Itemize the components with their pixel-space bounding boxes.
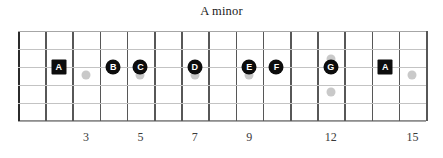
fret-wire-15 [426,31,428,121]
string-line-2 [18,49,426,50]
fret-number-7: 7 [180,130,210,144]
note-marker-a-fret-2[interactable]: A [51,60,66,75]
fretboard: ABCDEFGA [18,31,426,121]
note-marker-c-fret-5[interactable]: C [133,60,148,75]
inlay-dot-fret-3 [82,71,91,80]
note-marker-e-fret-9[interactable]: E [242,60,257,75]
fret-wire-8 [236,31,238,121]
fret-wire-1 [45,31,47,121]
string-line-5 [18,103,426,104]
fret-wire-12 [344,31,346,121]
fret-number-12: 12 [316,130,346,144]
nut [18,31,20,121]
fret-number-9: 9 [234,130,264,144]
string-line-1 [18,31,426,32]
note-marker-g-fret-12[interactable]: G [323,60,338,75]
string-line-3 [18,67,426,68]
fret-number-15: 15 [397,130,427,144]
fret-wire-3 [100,31,102,121]
string-line-4 [18,85,426,86]
fret-wire-14 [399,31,401,121]
note-marker-d-fret-7[interactable]: D [187,60,202,75]
fret-wire-9 [263,31,265,121]
note-marker-f-fret-10[interactable]: F [269,60,284,75]
fret-number-3: 3 [71,130,101,144]
fret-wire-13 [372,31,374,121]
fret-number-5: 5 [125,130,155,144]
note-marker-a-fret-14[interactable]: A [378,60,393,75]
fret-wire-10 [290,31,292,121]
fret-wire-11 [317,31,319,121]
page-title: A minor [0,4,443,18]
fret-wire-7 [208,31,210,121]
inlay-dot-fret-12-2 [326,88,335,97]
fretboard-diagram: A minor ABCDEFGA 35791215 [0,0,443,158]
string-line-6 [18,121,426,122]
fret-wire-4 [127,31,129,121]
fret-wire-6 [181,31,183,121]
inlay-dot-fret-15 [408,71,417,80]
fret-wire-5 [154,31,156,121]
note-marker-b-fret-4[interactable]: B [106,60,121,75]
fret-wire-2 [72,31,74,121]
